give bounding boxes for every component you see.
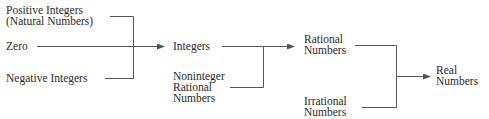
bracket-integers [105, 17, 134, 79]
label-line: (Natural Numbers) [6, 16, 93, 27]
label-line: Negative Integers [6, 73, 87, 84]
number-classification-diagram: Positive Integers (Natural Numbers) Zero… [0, 0, 489, 119]
label-line: Numbers [173, 93, 225, 104]
node-zero: Zero [6, 41, 28, 52]
bracket-rational [222, 47, 264, 88]
label-line: Integers [173, 41, 210, 52]
label-line: Zero [6, 41, 28, 52]
node-negative-integers: Negative Integers [6, 73, 87, 84]
node-real-numbers: Real Numbers [436, 65, 478, 87]
node-rational-numbers: Rational Numbers [304, 34, 346, 56]
node-positive-integers: Positive Integers (Natural Numbers) [6, 5, 93, 27]
label-line: Numbers [304, 45, 346, 56]
bracket-real [355, 46, 397, 108]
label-line: Numbers [304, 107, 347, 118]
label-line: Numbers [436, 76, 478, 87]
node-irrational-numbers: Irrational Numbers [304, 96, 347, 118]
node-noninteger-rational: Noninteger Rational Numbers [173, 71, 225, 104]
node-integers: Integers [173, 41, 210, 52]
